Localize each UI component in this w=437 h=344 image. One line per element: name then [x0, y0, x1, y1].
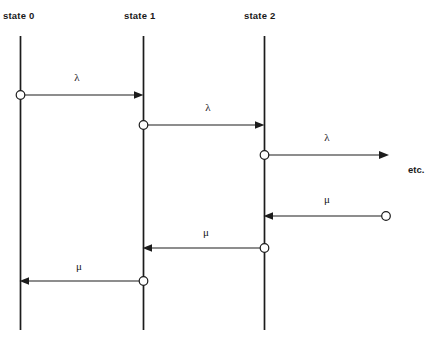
transition-lambda-1-to-2: λ [139, 101, 264, 129]
state-label-1: state 1 [124, 10, 156, 21]
state-labels: state 0 state 1 state 2 [3, 10, 276, 21]
arrow-head-right [379, 151, 389, 159]
rate-label-mu: μ [203, 226, 209, 238]
rate-label-lambda: λ [74, 71, 80, 83]
event-dot [16, 91, 25, 100]
rate-label-mu: μ [324, 193, 330, 205]
state-timelines [21, 36, 265, 330]
event-dot [139, 277, 148, 286]
arrow-head-right [134, 91, 144, 99]
event-dot [260, 244, 269, 253]
event-dot [382, 212, 391, 221]
state-transition-diagram: state 0 state 1 state 2 λ λ λ etc. [0, 0, 437, 344]
rate-label-lambda: λ [324, 131, 330, 143]
rate-label-lambda: λ [205, 101, 211, 113]
transition-lambda-2-to-3: λ [260, 131, 389, 159]
transition-mu-2-to-1: μ [143, 226, 269, 252]
transition-lambda-0-to-1: λ [16, 71, 143, 99]
state-label-2: state 2 [244, 10, 276, 21]
event-dot [260, 151, 269, 160]
rate-label-mu: μ [76, 260, 82, 272]
event-dot [139, 121, 148, 130]
transition-mu-3-to-2: μ [264, 193, 391, 220]
arrow-head-right [255, 121, 265, 129]
transition-mu-1-to-0: μ [20, 260, 148, 285]
state-label-0: state 0 [3, 10, 35, 21]
etc-annotation: etc. [408, 164, 424, 175]
diagram-canvas: state 0 state 1 state 2 λ λ λ etc. [0, 0, 437, 344]
